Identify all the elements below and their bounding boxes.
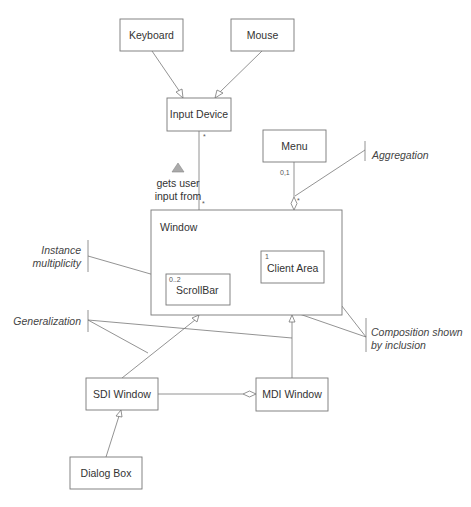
client-area-multiplicity: 1 bbox=[265, 253, 269, 260]
class-menu: Menu bbox=[263, 130, 326, 162]
uml-diagram: Keyboard Mouse Input Device Menu Window … bbox=[0, 0, 471, 507]
note-instance-line2: multiplicity bbox=[33, 257, 82, 269]
class-sdi-window: SDI Window bbox=[86, 378, 158, 410]
dialog-generalization-line bbox=[106, 416, 119, 457]
note-instance-line1: Instance bbox=[41, 244, 81, 256]
input-device-multiplicity: * bbox=[203, 133, 206, 140]
class-mdi-window: MDI Window bbox=[256, 378, 328, 411]
class-sdi-window-label: SDI Window bbox=[93, 388, 151, 400]
direction-triangle-icon bbox=[172, 163, 184, 172]
generalization-arrowhead-icon bbox=[192, 315, 199, 322]
mouse-generalization-line bbox=[220, 51, 262, 92]
note-composition-line1: Composition shown bbox=[371, 326, 463, 338]
class-dialog-box-label: Dialog Box bbox=[81, 467, 133, 479]
generalization-arrowhead-icon bbox=[116, 410, 122, 417]
association-label-line1: gets user bbox=[156, 177, 200, 189]
class-window-label: Window bbox=[160, 221, 198, 233]
window-menu-multiplicity: * bbox=[297, 197, 300, 204]
aggregation-diamond-icon bbox=[243, 391, 256, 397]
class-client-area-label: Client Area bbox=[267, 262, 319, 274]
class-menu-label: Menu bbox=[281, 140, 307, 152]
class-input-device: Input Device bbox=[167, 98, 231, 131]
class-keyboard: Keyboard bbox=[120, 19, 183, 51]
scrollbar-multiplicity: 0..2 bbox=[169, 276, 181, 283]
menu-multiplicity: 0,1 bbox=[280, 169, 290, 176]
generalization-arrowhead-icon bbox=[289, 315, 295, 322]
generalization-note-pointer-mdi bbox=[88, 320, 292, 338]
class-client-area: Client Area 1 bbox=[261, 251, 324, 283]
generalization-note-pointer-sdi bbox=[88, 320, 148, 353]
window-input-multiplicity: * bbox=[202, 200, 205, 207]
note-aggregation: Aggregation bbox=[371, 149, 429, 161]
class-scrollbar: ScrollBar 0..2 bbox=[166, 274, 230, 305]
class-mouse: Mouse bbox=[231, 19, 294, 51]
class-mdi-window-label: MDI Window bbox=[262, 388, 322, 400]
generalization-arrowhead-icon bbox=[215, 90, 223, 98]
generalization-arrowhead-icon bbox=[176, 89, 183, 98]
note-composition-line2: by inclusion bbox=[371, 339, 426, 351]
keyboard-generalization-line bbox=[152, 51, 180, 92]
class-mouse-label: Mouse bbox=[247, 29, 279, 41]
note-generalization: Generalization bbox=[13, 315, 81, 327]
class-keyboard-label: Keyboard bbox=[129, 29, 174, 41]
class-scrollbar-label: ScrollBar bbox=[176, 284, 219, 296]
association-label-line2: input from bbox=[155, 190, 202, 202]
class-dialog-box: Dialog Box bbox=[70, 457, 142, 489]
class-input-device-label: Input Device bbox=[170, 108, 229, 120]
